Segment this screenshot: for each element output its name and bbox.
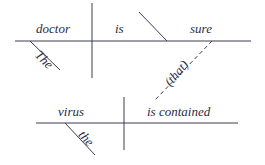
- main-predicate: sure: [190, 22, 212, 35]
- main-subject: doctor: [36, 22, 70, 35]
- main-predicate-slant: [139, 12, 167, 41]
- main-verb: is: [115, 22, 124, 35]
- sub-subject: virus: [58, 105, 84, 118]
- sub-verb: is contained: [147, 105, 210, 118]
